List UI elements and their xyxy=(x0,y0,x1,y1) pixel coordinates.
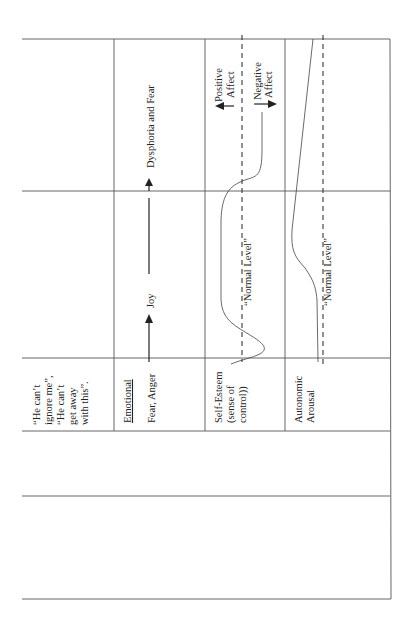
thought-line: “He can’t xyxy=(31,385,42,425)
negative-affect-label: Affect xyxy=(263,71,274,98)
emotion-arrow-lower xyxy=(145,198,153,362)
self-esteem-cell: Self-Esteem (sense of control)) “Normal … xyxy=(213,62,274,423)
table-grid xyxy=(22,39,391,599)
emotional-cell: Emotional Fear, Anger Joy Dysphoria and … xyxy=(122,85,157,423)
thought-cell: “He can’t ignore me”, “He can’t get away… xyxy=(31,375,90,425)
autonomic-cell: Autonomic Arousal “Normal Level” xyxy=(293,238,333,423)
positive-affect-label: Affect xyxy=(225,71,236,98)
rotated-table-figure: “He can’t ignore me”, “He can’t get away… xyxy=(0,0,408,628)
emotion-joy-label: Joy xyxy=(145,293,156,308)
emotional-heading: Emotional xyxy=(122,379,133,423)
thought-line: “He can’t xyxy=(55,385,66,425)
negative-affect-arrow xyxy=(254,100,277,108)
thought-line: ignore me”, xyxy=(43,375,54,425)
self-esteem-label-line: (sense of xyxy=(225,385,237,423)
positive-affect-label: Positive xyxy=(213,68,224,102)
autonomic-label-line: Arousal xyxy=(305,390,316,423)
autonomic-normal-label: “Normal Level” xyxy=(322,238,333,306)
emotion-start-label: Fear, Anger xyxy=(146,373,157,423)
self-esteem-curve xyxy=(221,112,264,364)
negative-affect-label: Negative xyxy=(252,62,263,100)
self-esteem-label-line: Self-Esteem xyxy=(213,372,224,423)
autonomic-arousal-curve xyxy=(292,39,318,362)
emotion-arrow-upper xyxy=(145,178,153,191)
thought-line: get away xyxy=(67,387,78,425)
autonomic-label-line: Autonomic xyxy=(293,375,304,423)
self-esteem-normal-label: “Normal Level” xyxy=(242,238,253,306)
thought-line: with this”. xyxy=(79,381,90,425)
positive-affect-arrow xyxy=(215,102,234,110)
self-esteem-label-line: control)) xyxy=(237,386,249,423)
emotion-end-label: Dysphoria and Fear xyxy=(145,85,156,168)
